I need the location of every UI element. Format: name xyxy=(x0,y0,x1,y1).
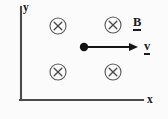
velocity-label: v xyxy=(144,40,150,55)
field-marker-bottom-right xyxy=(105,64,121,80)
diagram-canvas xyxy=(0,0,168,119)
physics-field-diagram: y x B v xyxy=(0,0,168,119)
velocity-arrowhead-icon xyxy=(129,43,138,51)
field-marker-top-left xyxy=(50,18,66,34)
field-marker-top-right xyxy=(105,17,121,33)
particle-dot xyxy=(80,43,88,51)
coordinate-axes xyxy=(20,7,143,100)
x-axis-label: x xyxy=(147,94,153,106)
magnetic-field-label: B xyxy=(133,16,141,31)
y-axis-label: y xyxy=(23,2,29,14)
velocity-arrow xyxy=(86,43,138,51)
field-marker-bottom-left xyxy=(50,64,66,80)
